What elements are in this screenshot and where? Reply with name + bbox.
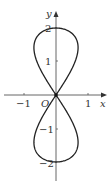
x-axis-arrow-icon <box>101 93 107 98</box>
origin-point <box>54 93 58 97</box>
y-tick-label-neg2: −2 <box>39 158 54 169</box>
y-tick-label-1: 1 <box>45 56 51 67</box>
x-tick-label-neg1: −1 <box>16 98 31 109</box>
y-tick-label-neg1: −1 <box>39 124 54 135</box>
y-axis-arrow-icon <box>54 11 59 17</box>
figure-eight-plot: y x O −1 1 2 1 −1 −2 <box>0 0 112 183</box>
origin-label: O <box>41 98 49 109</box>
y-tick-label-2: 2 <box>45 23 51 34</box>
x-axis-label: x <box>100 98 106 109</box>
x-tick-label-1: 1 <box>85 98 91 109</box>
y-axis-label: y <box>45 8 52 19</box>
